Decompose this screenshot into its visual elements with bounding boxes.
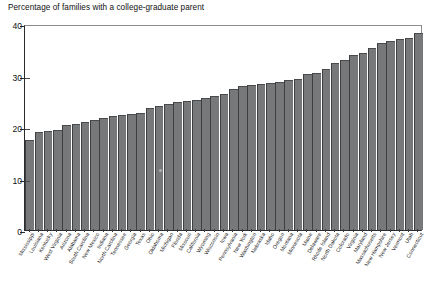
bar: [72, 124, 81, 230]
bar: [99, 118, 108, 230]
bar: [368, 48, 377, 230]
bar: [62, 125, 71, 230]
bar: [247, 85, 256, 230]
bar: [109, 116, 118, 230]
bar: [118, 115, 127, 230]
bar: [303, 74, 312, 230]
bar: [201, 98, 210, 230]
bar: [349, 55, 358, 230]
bars-layer: [25, 26, 421, 230]
bar: [192, 100, 201, 230]
bar: [81, 122, 90, 230]
bar: [35, 132, 44, 230]
bar: [377, 43, 386, 230]
bar: [25, 140, 34, 230]
bar: [44, 131, 53, 230]
chart-title: Percentage of families with a college-gr…: [8, 3, 204, 13]
y-tick-label: 10: [12, 176, 22, 185]
bar: [164, 104, 173, 230]
y-tick-label: 0: [17, 228, 22, 237]
y-tick-inner: [25, 129, 30, 130]
bar: [146, 108, 155, 230]
y-tick-inner: [25, 78, 30, 79]
bar: [90, 120, 99, 230]
bar: [396, 39, 405, 230]
plot-area: 010203040: [24, 25, 422, 231]
y-tick-inner: [25, 181, 30, 182]
bar: [322, 69, 331, 230]
bar: [53, 130, 62, 230]
bar: [405, 38, 414, 230]
bar: [284, 80, 293, 230]
bar: [266, 83, 275, 230]
bar: [183, 101, 192, 230]
bar: [359, 53, 368, 230]
bar: [238, 86, 247, 230]
scan-artifact: [159, 169, 162, 172]
bar: [257, 84, 266, 230]
bar: [414, 33, 423, 230]
bar: [173, 102, 182, 230]
bar: [210, 96, 219, 230]
bar: [136, 113, 145, 230]
bar: [294, 79, 303, 230]
bar: [275, 82, 284, 230]
figure: Percentage of families with a college-gr…: [0, 0, 430, 287]
y-tick-label: 30: [12, 73, 22, 82]
bar: [127, 114, 136, 230]
bar: [386, 41, 395, 230]
x-axis-labels: MississippiLouisianaKentuckyWest Virgini…: [24, 232, 422, 287]
bar: [312, 73, 321, 230]
bar: [220, 94, 229, 230]
bar: [340, 60, 349, 230]
y-tick-label: 40: [12, 22, 22, 31]
bar: [229, 89, 238, 230]
y-tick-label: 20: [12, 125, 22, 134]
bar: [155, 106, 164, 230]
bar: [331, 63, 340, 230]
